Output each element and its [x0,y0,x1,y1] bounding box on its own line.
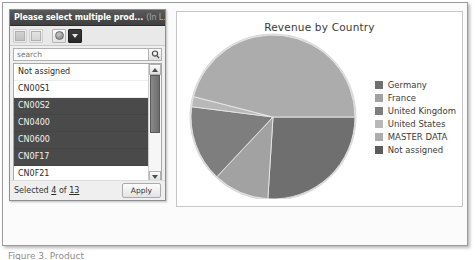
dialog-title: Please select multiple prod... [14,13,143,22]
list-item[interactable]: CN00S2 [14,98,148,115]
legend-swatch [375,107,383,115]
pie-slices [190,34,357,200]
product-selector-dialog: Please select multiple prod... (In L... [9,9,166,201]
legend-swatch [375,81,383,89]
legend-label: United Kingdom [388,106,456,116]
status-middle: of [59,186,67,195]
dialog-title-suffix: (In L... [146,13,165,22]
legend-item[interactable]: Not assigned [375,144,456,155]
legend-item[interactable]: United Kingdom [375,105,456,116]
select-all-button[interactable] [13,29,27,43]
magnifier-icon [151,50,160,59]
chevron-up-icon [152,68,158,72]
scrollbar-thumb[interactable] [150,75,160,133]
legend-swatch [375,146,383,154]
legend-label: Germany [388,80,427,90]
dialog-toolbar [10,26,165,46]
search-button[interactable] [148,48,162,61]
legend-item[interactable]: MASTER DATA [375,131,456,142]
sphere-icon [55,31,64,40]
list-item[interactable]: CN0600 [14,132,148,149]
selection-status: Selected 4 of 13 [14,186,79,195]
chevron-down-icon [152,175,158,179]
deselect-all-button[interactable] [29,29,43,43]
list-items: Not assigned CN00S1 CN00S2 CN0400 CN0600… [14,64,148,182]
list-item[interactable]: CN0400 [14,115,148,132]
pie-chart [181,31,361,199]
legend-label: Not assigned [388,145,443,155]
selected-count[interactable]: 4 [51,186,56,195]
legend-item[interactable]: France [375,92,456,103]
product-listbox[interactable]: Not assigned CN00S1 CN00S2 CN0400 CN0600… [13,63,162,183]
figure-panel: Please select multiple prod... (In L... [2,2,468,246]
scroll-up-button[interactable] [149,64,161,75]
list-scrollbar[interactable] [148,64,161,182]
legend-swatch [375,94,383,102]
apply-button[interactable]: Apply [122,183,161,198]
legend-item[interactable]: United States [375,118,456,129]
grid-light-icon [31,31,41,41]
list-item[interactable]: CN00S1 [14,81,148,98]
legend-item[interactable]: Germany [375,79,456,90]
list-item[interactable]: CN0F17 [14,149,148,166]
legend-swatch [375,120,383,128]
status-prefix: Selected [14,186,49,195]
dropdown-toggle-button[interactable] [68,29,82,43]
caret-down-icon [72,34,78,38]
scrollbar-track[interactable] [149,75,161,171]
total-count[interactable]: 13 [69,186,79,195]
search-row [10,46,165,63]
legend-label: United States [388,119,446,129]
dialog-footer: Selected 4 of 13 Apply [10,180,165,200]
pie-slice[interactable] [268,117,355,199]
figure-caption: Figure 3. Product [8,251,208,260]
legend-swatch [375,133,383,141]
chart-card: Revenue by Country Germany France United… [176,11,463,207]
legend-label: France [388,93,416,103]
filter-toggle-button[interactable] [52,29,66,43]
grid-icon [15,31,25,41]
legend-label: MASTER DATA [388,132,448,142]
dialog-titlebar[interactable]: Please select multiple prod... (In L... [10,10,165,26]
list-item[interactable]: Not assigned [14,64,148,81]
search-input[interactable] [13,48,148,61]
chart-body: Germany France United Kingdom United Sta… [177,33,462,198]
chart-legend: Germany France United Kingdom United Sta… [375,79,456,155]
